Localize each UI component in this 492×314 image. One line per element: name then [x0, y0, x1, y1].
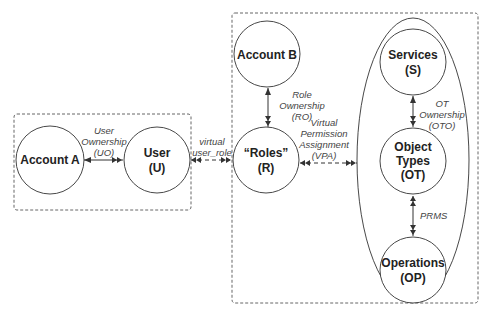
ro-label-2: Ownership [279, 100, 324, 111]
node-services: Services (S) [380, 29, 446, 95]
node-account-a: Account A [16, 126, 84, 194]
ro-label-1: Role [292, 89, 312, 100]
services-circle [380, 29, 446, 95]
object-types-label-2: Types [396, 154, 430, 168]
vpa-label-1: Virtual [311, 117, 339, 128]
services-label: Services [388, 48, 438, 62]
oto-label-1: OT [435, 98, 449, 109]
uo-label-2: Ownership [81, 136, 126, 147]
operations-label: Operations [381, 256, 445, 270]
roles-circle [233, 127, 299, 193]
user-role-label-2: user_role [192, 147, 232, 158]
vpa-label-3: Assignment [298, 139, 349, 150]
node-roles: “Roles” (R) [233, 127, 299, 193]
ro-label-3: (RO) [292, 111, 313, 122]
node-object-types: Object Types (OT) [380, 128, 446, 194]
node-operations: Operations (OP) [380, 237, 446, 303]
node-account-b: Account B [234, 21, 300, 87]
roles-abbrev: (R) [258, 161, 275, 175]
label-vpa: Virtual Permission Assignment (VPA) [298, 117, 349, 161]
services-abbrev: (S) [405, 63, 421, 77]
label-oto: OT Ownership (OTO) [419, 98, 464, 131]
vpa-label-4: (VPA) [312, 150, 337, 161]
uo-label-3: (UO) [94, 147, 115, 158]
node-user: User (U) [124, 127, 190, 193]
account-a-label: Account A [20, 153, 80, 167]
account-b-label: Account B [237, 48, 297, 62]
user-label: User [144, 146, 171, 160]
oto-label-3: (OTO) [429, 120, 456, 131]
object-types-abbrev: (OT) [401, 168, 426, 182]
operations-circle [380, 237, 446, 303]
roles-label: “Roles” [244, 146, 289, 160]
diagram-canvas: Account A User (U) Account B “Roles” (R)… [0, 0, 492, 314]
label-user-role: virtual user_role [192, 136, 232, 158]
user-circle [124, 127, 190, 193]
label-uo: User Ownership (UO) [81, 125, 126, 158]
label-prms: PRMS [420, 210, 448, 221]
prms-label: PRMS [420, 210, 448, 221]
operations-abbrev: (OP) [400, 271, 425, 285]
uo-label-1: User [94, 125, 115, 136]
vpa-label-2: Permission [301, 128, 348, 139]
user-abbrev: (U) [149, 161, 166, 175]
oto-label-2: Ownership [419, 109, 464, 120]
user-role-label-1: virtual [199, 136, 225, 147]
object-types-label-1: Object [394, 140, 431, 154]
